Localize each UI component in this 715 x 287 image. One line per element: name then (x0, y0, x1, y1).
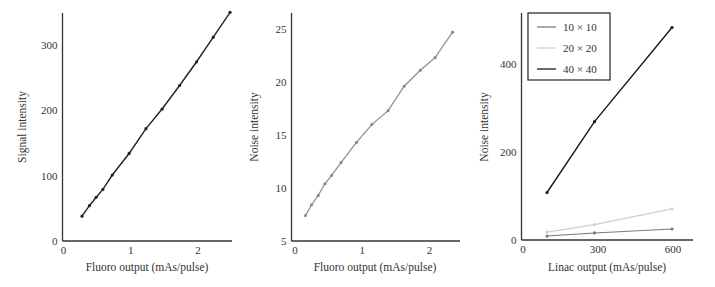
data-point (88, 204, 91, 207)
series-line (82, 12, 230, 216)
legend-entry: 10 × 10 (563, 21, 597, 33)
data-point (161, 107, 164, 110)
data-point (403, 85, 406, 88)
data-point (323, 182, 326, 185)
noise-intensity-linac-chart: 03006000200400 Linac output (mAs/pulse) … (478, 13, 693, 274)
data-point (95, 196, 98, 199)
charts-canvas: 0120100200300 Fluoro output (mAs/pulse) … (0, 0, 715, 287)
data-point (317, 194, 320, 197)
y-tick-label: 100 (41, 170, 58, 182)
x-axis-label: Fluoro output (mAs/pulse) (86, 261, 209, 274)
y-tick-label: 400 (500, 58, 517, 70)
data-point (670, 26, 673, 29)
data-point (593, 231, 596, 234)
data-point (212, 36, 215, 39)
y-tick-label: 0 (52, 235, 58, 247)
y-axis-label: Noise intensity (478, 92, 491, 162)
y-tick-label: 0 (511, 234, 517, 246)
data-point (355, 141, 358, 144)
data-point (330, 174, 333, 177)
legend-entry: 40 × 40 (563, 63, 597, 75)
x-axis-label: Linac output (mAs/pulse) (548, 261, 666, 274)
x-tick-label: 0 (292, 244, 298, 256)
data-point (386, 109, 389, 112)
x-tick-label: 1 (359, 244, 365, 256)
data-point (111, 173, 114, 176)
x-tick-label: 1 (128, 244, 134, 256)
y-axis-label: Signal intensity (16, 91, 29, 163)
data-point (370, 123, 373, 126)
data-point (593, 120, 596, 123)
x-tick-label: 300 (590, 243, 607, 255)
x-tick-label: 0 (520, 243, 526, 255)
y-tick-label: 10 (276, 182, 288, 194)
y-tick-label: 300 (41, 39, 58, 51)
data-point (545, 234, 548, 237)
signal-intensity-chart: 0120100200300 Fluoro output (mAs/pulse) … (16, 11, 232, 274)
figure: 0120100200300 Fluoro output (mAs/pulse) … (0, 0, 715, 287)
data-point (670, 227, 673, 230)
plot-area: 0120100200300 (41, 11, 232, 256)
legend-entry: 20 × 20 (563, 42, 597, 54)
data-point (545, 191, 548, 194)
data-point (434, 56, 437, 59)
series-line (547, 209, 672, 232)
data-point (451, 31, 454, 34)
x-tick-label: 2 (195, 244, 201, 256)
data-point (545, 230, 548, 233)
y-tick-label: 15 (276, 129, 288, 141)
y-tick-label: 20 (276, 76, 288, 88)
legend: 10 × 1020 × 2040 × 40 (528, 13, 610, 80)
y-tick-label: 5 (281, 235, 287, 247)
data-point (339, 161, 342, 164)
data-point (304, 214, 307, 217)
series-line (305, 32, 452, 215)
data-point (593, 223, 596, 226)
data-point (195, 60, 198, 63)
data-point (228, 11, 231, 14)
plot-area: 012510152025 (276, 13, 461, 256)
series-line (547, 229, 672, 236)
y-tick-label: 200 (41, 104, 58, 116)
data-point (80, 215, 83, 218)
y-tick-label: 200 (500, 146, 517, 158)
y-tick-label: 25 (276, 23, 288, 35)
x-axis-label: Fluoro output (mAs/pulse) (314, 261, 437, 274)
x-tick-label: 600 (665, 243, 682, 255)
data-point (128, 152, 131, 155)
data-point (101, 188, 104, 191)
noise-intensity-fluoro-chart: 012510152025 Fluoro output (mAs/pulse) N… (248, 13, 460, 274)
data-point (178, 84, 181, 87)
data-point (310, 203, 313, 206)
x-tick-label: 0 (61, 244, 67, 256)
x-tick-label: 2 (427, 244, 433, 256)
data-point (144, 127, 147, 130)
data-point (419, 69, 422, 72)
data-point (670, 207, 673, 210)
y-axis-label: Noise intensity (248, 92, 261, 162)
